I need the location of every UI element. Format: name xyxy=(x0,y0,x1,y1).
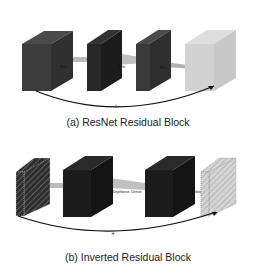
residual-block-diagram: Relu Relu Relu + xyxy=(0,0,256,273)
layer-label: Relu xyxy=(160,66,167,70)
feature-block-expansion xyxy=(63,156,113,217)
feature-block-output-hatched xyxy=(201,158,236,216)
feature-block-depthwise xyxy=(145,156,195,217)
feature-block-conv2 xyxy=(136,30,171,91)
caption-panel-b: (b) Inverted Residual Block xyxy=(0,251,256,263)
panel-b-inverted: Depthwise, Dense + xyxy=(16,156,236,237)
layer-label: Relu xyxy=(118,65,125,69)
layer-label: Depthwise, Dense xyxy=(113,190,141,194)
feature-block-input-hatched xyxy=(16,158,50,216)
caption-panel-a: (a) ResNet Residual Block xyxy=(0,116,256,128)
panel-a-resnet: Relu Relu Relu + xyxy=(22,30,236,110)
connector xyxy=(110,178,145,190)
feature-block-conv1 xyxy=(87,30,122,91)
feature-block-output xyxy=(185,30,236,91)
layer-label: Relu xyxy=(60,65,67,69)
skip-plus-symbol: + xyxy=(114,103,118,110)
skip-connection-arc xyxy=(18,212,216,231)
feature-block-input xyxy=(22,31,73,91)
skip-plus-symbol: + xyxy=(111,230,115,237)
